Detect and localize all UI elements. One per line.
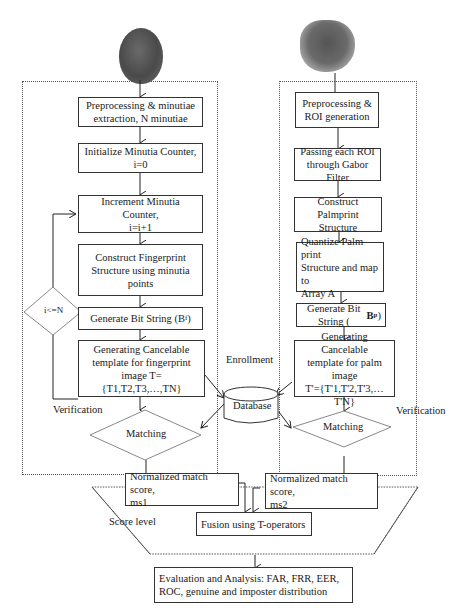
fp-matching-label: Matching	[126, 428, 166, 439]
fp-verification-label: Verification	[53, 404, 103, 415]
fp-cancelable-template-box: Generating Cancelable template for finge…	[78, 340, 205, 397]
database-label: Database	[233, 400, 271, 411]
fp-preprocessing-box: Preprocessing & minutiae extraction, N m…	[78, 97, 203, 127]
ms2-box: Normalized match score, ms2	[265, 473, 378, 509]
fusion-box: Fusion using T-operators	[196, 512, 312, 536]
fp-increment-counter-box: Increment Minutia Counter, i=i+1	[78, 195, 203, 233]
fp-construct-structure-box: Construct Fingerprint Structure using mi…	[78, 244, 203, 296]
evaluation-box: Evaluation and Analysis: FAR, FRR, EER, …	[154, 567, 353, 603]
palm-verification-label: Verification	[396, 405, 446, 416]
palm-construct-structure-box: Construct Palmprint Structure	[294, 197, 382, 232]
fp-bit-string-box: Generate Bit String (Bf)	[78, 307, 203, 330]
palm-matching-label: Matching	[323, 421, 363, 432]
palm-cancelable-template-box: Generating Cancelable template for palm …	[294, 340, 395, 397]
palm-quantize-box: Quantize Palm print Structure and map to…	[296, 242, 384, 292]
enrollment-label: Enrollment	[226, 354, 273, 365]
palm-preprocessing-box: Preprocessing & ROI generation	[295, 92, 379, 128]
palm-bit-string-box: Generate Bit String (Bp)	[296, 303, 386, 327]
score-level-label: Score level	[109, 516, 156, 527]
palm-gabor-box: Passing each ROI through Gabor Filter	[294, 148, 381, 181]
fp-loop-condition: i<=N	[44, 305, 63, 315]
ms1-box: Normalized match score, ms1	[125, 473, 239, 506]
fp-init-counter-box: Initialize Minutia Counter, i=0	[78, 143, 203, 173]
